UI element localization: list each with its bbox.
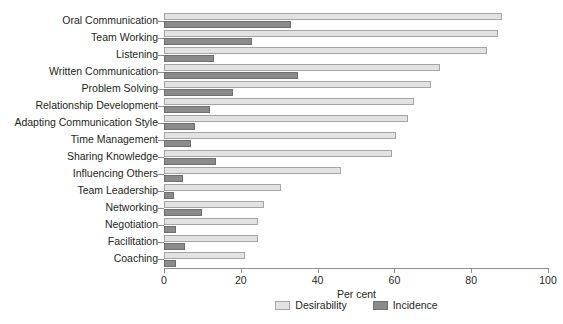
bar-desirability bbox=[164, 81, 431, 88]
legend-label: Incidence bbox=[393, 299, 438, 311]
bar-incidence bbox=[164, 38, 252, 45]
x-axis-tick bbox=[548, 268, 549, 273]
bar-desirability bbox=[164, 218, 258, 225]
bar-desirability bbox=[164, 252, 245, 259]
bar-group bbox=[164, 200, 548, 217]
bar-desirability bbox=[164, 47, 487, 54]
bar-incidence bbox=[164, 260, 176, 267]
bar-desirability bbox=[164, 150, 392, 157]
plot-area bbox=[164, 12, 548, 268]
bar-incidence bbox=[164, 243, 185, 250]
category-label: Listening bbox=[0, 49, 158, 60]
bar-group bbox=[164, 149, 548, 166]
bar-incidence bbox=[164, 192, 174, 199]
category-label: Negotiation bbox=[0, 219, 158, 230]
x-axis-tick-label: 80 bbox=[451, 274, 491, 286]
bar-group bbox=[164, 234, 548, 251]
category-axis: Oral CommunicationTeam WorkingListeningW… bbox=[0, 12, 158, 268]
bar-group bbox=[164, 80, 548, 97]
x-axis-tick bbox=[164, 268, 165, 273]
bar-chart: Oral CommunicationTeam WorkingListeningW… bbox=[0, 0, 563, 324]
category-label: Time Management bbox=[0, 134, 158, 145]
bar-group bbox=[164, 166, 548, 183]
category-label: Team Working bbox=[0, 32, 158, 43]
bar-desirability bbox=[164, 235, 258, 242]
chart-legend: DesirabilityIncidence bbox=[164, 299, 549, 311]
bar-incidence bbox=[164, 55, 214, 62]
x-axis-tick bbox=[241, 268, 242, 273]
bar-group bbox=[164, 183, 548, 200]
category-label: Facilitation bbox=[0, 236, 158, 247]
bar-incidence bbox=[164, 175, 183, 182]
bar-group bbox=[164, 46, 548, 63]
bar-group bbox=[164, 131, 548, 148]
x-axis-tick bbox=[394, 268, 395, 273]
bar-desirability bbox=[164, 201, 264, 208]
x-axis-tick bbox=[318, 268, 319, 273]
bar-group bbox=[164, 217, 548, 234]
bar-incidence bbox=[164, 158, 216, 165]
x-axis-tick-label: 0 bbox=[144, 274, 184, 286]
bar-group bbox=[164, 12, 548, 29]
x-axis-tick-label: 20 bbox=[221, 274, 261, 286]
legend-item-incidence[interactable]: Incidence bbox=[373, 299, 438, 311]
legend-swatch-incidence bbox=[373, 301, 388, 310]
bar-incidence bbox=[164, 72, 298, 79]
bar-incidence bbox=[164, 123, 195, 130]
bar-incidence bbox=[164, 226, 176, 233]
bar-desirability bbox=[164, 30, 498, 37]
bar-desirability bbox=[164, 115, 408, 122]
bar-group bbox=[164, 97, 548, 114]
category-label: Sharing Knowledge bbox=[0, 151, 158, 162]
category-label: Influencing Others bbox=[0, 168, 158, 179]
bar-group bbox=[164, 29, 548, 46]
bar-incidence bbox=[164, 89, 233, 96]
bar-group bbox=[164, 251, 548, 268]
x-axis-tick-label: 60 bbox=[374, 274, 414, 286]
bar-desirability bbox=[164, 184, 281, 191]
legend-swatch-desirability bbox=[275, 301, 290, 310]
legend-item-desirability[interactable]: Desirability bbox=[275, 299, 346, 311]
x-axis-line bbox=[164, 268, 549, 269]
category-label: Adapting Communication Style bbox=[0, 117, 158, 128]
category-label: Oral Communication bbox=[0, 15, 158, 26]
bar-incidence bbox=[164, 209, 202, 216]
bar-group bbox=[164, 114, 548, 131]
bar-incidence bbox=[164, 140, 191, 147]
category-label: Coaching bbox=[0, 253, 158, 264]
category-label: Team Leadership bbox=[0, 185, 158, 196]
bar-desirability bbox=[164, 167, 341, 174]
x-axis-tick bbox=[471, 268, 472, 273]
bar-desirability bbox=[164, 64, 440, 71]
bar-group bbox=[164, 63, 548, 80]
legend-label: Desirability bbox=[295, 299, 346, 311]
x-axis-tick-label: 100 bbox=[528, 274, 563, 286]
category-label: Relationship Development bbox=[0, 100, 158, 111]
bar-incidence bbox=[164, 106, 210, 113]
bar-desirability bbox=[164, 132, 396, 139]
category-label: Problem Solving bbox=[0, 83, 158, 94]
category-label: Networking bbox=[0, 202, 158, 213]
category-label: Written Communication bbox=[0, 66, 158, 77]
bar-incidence bbox=[164, 21, 291, 28]
x-axis-tick-label: 40 bbox=[298, 274, 338, 286]
bar-desirability bbox=[164, 98, 414, 105]
bar-desirability bbox=[164, 13, 502, 20]
